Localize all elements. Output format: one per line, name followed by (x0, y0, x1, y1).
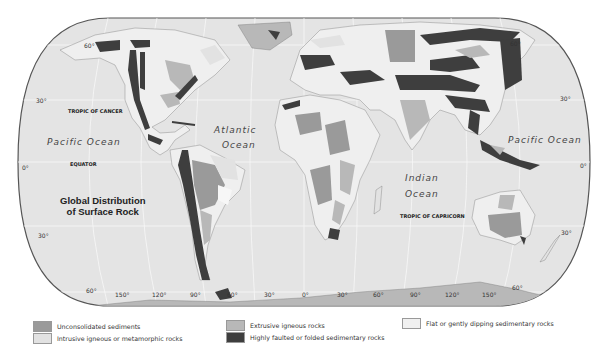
legend-swatch-extrusive (226, 320, 245, 331)
tropic-of-capricorn-label: TROPIC OF CAPRICORN (400, 213, 465, 219)
lon-120e: 120° (445, 291, 459, 298)
lat-0-right: 0° (580, 162, 587, 169)
pacific-ocean-west-label: Pacific Ocean (47, 137, 121, 147)
map-title-line-2: of Surface Rock (60, 206, 146, 217)
lat-30s-right: 30° (561, 229, 572, 236)
lat-60n-right: 60° (510, 40, 521, 47)
lat-0-left: 0° (22, 164, 29, 171)
lon-60-left: 60° (86, 287, 97, 294)
legend-label-unconsolidated: Unconsolidated sediments (57, 323, 140, 330)
lon-90e: 90° (410, 291, 421, 298)
lat-30n-left: 30° (36, 97, 47, 104)
pacific-ocean-east-label: Pacific Ocean (508, 135, 582, 145)
legend-item-flat: Flat or gently dipping sedimentary rocks (402, 318, 554, 329)
legend-item-extrusive: Extrusive igneous rocks (226, 320, 325, 331)
atlantic-ocean-label-2: Ocean (222, 140, 256, 150)
legend-item-faulted: Highly faulted or folded sedimentary roc… (226, 332, 384, 343)
lat-30n-right: 30° (560, 95, 571, 102)
lon-60w: 60° (227, 291, 238, 298)
lat-30s-left: 30° (38, 232, 49, 239)
map-title: Global Distribution of Surface Rock (60, 195, 146, 217)
legend-swatch-unconsolidated (33, 321, 52, 332)
tropic-of-cancer-label: TROPIC OF CANCER (68, 108, 123, 114)
legend-swatch-intrusive (33, 333, 52, 344)
legend-swatch-faulted (226, 332, 245, 343)
legend-item-intrusive: Intrusive igneous or metamorphic rocks (33, 333, 183, 344)
legend-swatch-flat (402, 318, 421, 329)
lon-90w: 90° (190, 291, 201, 298)
atlantic-ocean-label-1: Atlantic (214, 125, 256, 135)
indian-ocean-label-1: Indian (405, 173, 439, 183)
lon-30e: 30° (337, 291, 348, 298)
indian-ocean-label-2: Ocean (405, 189, 439, 199)
equator-label: EQUATOR (70, 161, 97, 167)
lon-150e: 150° (482, 291, 496, 298)
lat-60s-right: 60° (512, 284, 523, 291)
lon-60e: 60° (373, 291, 384, 298)
map-title-line-1: Global Distribution (60, 195, 146, 206)
lon-0: 0° (302, 291, 309, 298)
lat-60n-left: 60° (84, 42, 95, 49)
legend-label-flat: Flat or gently dipping sedimentary rocks (426, 320, 554, 327)
lon-30w: 30° (264, 291, 275, 298)
legend-item-unconsolidated: Unconsolidated sediments (33, 321, 140, 332)
lon-150w: 150° (115, 291, 129, 298)
legend-label-extrusive: Extrusive igneous rocks (250, 322, 325, 329)
lon-120w: 120° (152, 291, 166, 298)
legend-label-faulted: Highly faulted or folded sedimentary roc… (250, 334, 384, 341)
legend-label-intrusive: Intrusive igneous or metamorphic rocks (57, 335, 183, 342)
